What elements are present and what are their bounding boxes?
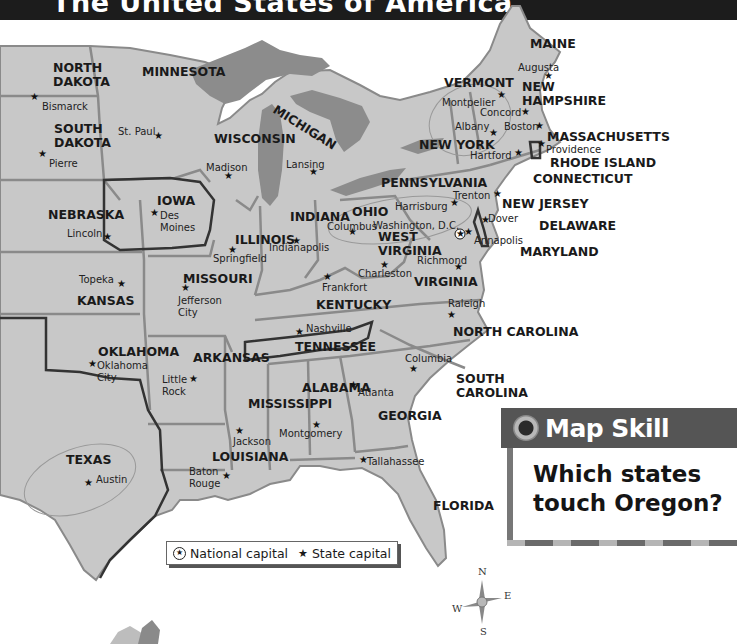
capital-label: Hartford bbox=[470, 150, 512, 161]
star-icon: ★ bbox=[493, 188, 502, 199]
state-label-minnesota: MINNESOTA bbox=[142, 64, 226, 79]
state-label-rhode-island: RHODE ISLAND bbox=[550, 155, 656, 170]
state-label-georgia: GEORGIA bbox=[378, 408, 442, 423]
compass-east: E bbox=[504, 590, 511, 601]
capital-label: Lincoln bbox=[67, 228, 102, 239]
star-icon: ★ bbox=[537, 138, 546, 149]
capital-label: Annapolis bbox=[474, 235, 523, 246]
capital-tallahassee: ★Tallahassee bbox=[359, 454, 424, 467]
capital-dover: ★Dover bbox=[481, 213, 519, 225]
star-icon: ★ bbox=[150, 207, 159, 218]
star-icon: ★ bbox=[38, 148, 47, 159]
star-icon: ★ bbox=[323, 271, 332, 282]
state-label-ohio: OHIO bbox=[352, 204, 388, 219]
star-icon: ★ bbox=[103, 231, 112, 242]
capital-label: Montgomery bbox=[279, 428, 342, 439]
legend-state-capital-label: State capital bbox=[312, 546, 391, 561]
state-label-maine: MAINE bbox=[530, 36, 576, 51]
capital-label: Madison bbox=[206, 162, 248, 173]
state-label-louisiana: LOUISIANA bbox=[212, 449, 289, 464]
state-label-mississippi: MISSISSIPPI bbox=[248, 396, 332, 411]
state-label-new-hampshire: NEWHAMPSHIRE bbox=[522, 79, 606, 108]
legend-national-capital-label: National capital bbox=[190, 546, 288, 561]
compass-rose: N E S W bbox=[452, 572, 512, 632]
star-icon: ★ bbox=[464, 226, 473, 237]
capital-label: Topeka bbox=[78, 274, 114, 285]
capital-label: Washington, D.C. bbox=[373, 220, 459, 231]
capital-boston: ★Boston bbox=[504, 120, 544, 132]
capital-label: Richmond bbox=[417, 255, 467, 266]
state-label-north-dakota: NORTHDAKOTA bbox=[53, 60, 110, 89]
capital-label: Pierre bbox=[49, 158, 78, 169]
compass-rose-icon bbox=[452, 572, 512, 632]
state-label-tennessee: TENNESSEE bbox=[295, 339, 376, 354]
compass-west: W bbox=[452, 603, 462, 614]
capital-label: BatonRouge bbox=[189, 466, 220, 489]
capital-label: Albany bbox=[455, 121, 489, 132]
capital-label: Columbia bbox=[405, 353, 452, 364]
state-label-oklahoma: OKLAHOMA bbox=[98, 344, 179, 359]
capital-label: Frankfort bbox=[322, 282, 367, 293]
capital-concord: ★Concord bbox=[480, 106, 530, 118]
capital-label: Charleston bbox=[358, 268, 412, 279]
map-skill-question: Which states touch Oregon? bbox=[533, 460, 737, 518]
star-icon: ★ bbox=[235, 425, 244, 436]
state-label-vermont: VERMONT bbox=[444, 75, 514, 90]
state-label-massachusetts: MASSACHUSETTS bbox=[547, 129, 670, 144]
capital-label: Tallahassee bbox=[366, 456, 424, 467]
capital-label: Dover bbox=[488, 213, 519, 224]
striped-border-decoration bbox=[507, 540, 737, 546]
legend-national-capital: ★ National capital bbox=[173, 546, 288, 561]
small-island-decoration-2 bbox=[138, 620, 160, 644]
capital-label: Nashville bbox=[306, 323, 352, 334]
compass-south: S bbox=[480, 626, 487, 637]
star-icon: ★ bbox=[450, 197, 459, 208]
state-label-south-carolina: SOUTHCAROLINA bbox=[456, 371, 528, 400]
compass-north: N bbox=[478, 566, 487, 577]
star-icon: ★ bbox=[222, 470, 231, 481]
capital-label: Lansing bbox=[286, 159, 325, 170]
state-label-iowa: IOWA bbox=[157, 193, 196, 208]
star-icon: ★ bbox=[295, 326, 304, 337]
capital-label: Raleigh bbox=[448, 298, 485, 309]
capital-label: LittleRock bbox=[162, 374, 187, 397]
state-label-south-dakota: SOUTHDAKOTA bbox=[54, 121, 111, 150]
capital-label: St. Paul bbox=[118, 126, 155, 137]
star-icon: ★ bbox=[497, 89, 506, 100]
capital-label: Harrisburg bbox=[395, 201, 448, 212]
capital-label: Bismarck bbox=[42, 101, 88, 112]
capital-label: Columbus bbox=[327, 221, 377, 232]
star-icon: ★ bbox=[84, 477, 93, 488]
state-label-texas: TEXAS bbox=[66, 452, 111, 467]
state-label-nebraska: NEBRASKA bbox=[48, 207, 125, 222]
star-icon: ★ bbox=[181, 282, 190, 293]
capital-label: Atlanta bbox=[358, 387, 394, 398]
capital-label: Augusta bbox=[518, 62, 559, 73]
state-label-delaware: DELAWARE bbox=[539, 218, 616, 233]
capital-label: Concord bbox=[480, 107, 521, 118]
capital-label: Indianapolis bbox=[269, 242, 329, 253]
state-label-connecticut: CONNECTICUT bbox=[533, 171, 633, 186]
map-skill-title: Map Skill bbox=[545, 414, 669, 443]
state-label-pennsylvania: PENNSYLVANIA bbox=[381, 175, 488, 190]
capital-label: Jackson bbox=[232, 436, 271, 447]
state-label-new-jersey: NEW JERSEY bbox=[502, 196, 589, 211]
state-label-maryland: MARYLAND bbox=[520, 244, 599, 259]
star-icon: ★ bbox=[489, 127, 498, 138]
star-icon: ★ bbox=[30, 91, 39, 102]
capital-label: Austin bbox=[96, 474, 127, 485]
state-label-arkansas: ARKANSAS bbox=[193, 350, 270, 365]
star-icon: ★ bbox=[349, 379, 358, 390]
star-icon: ★ bbox=[447, 309, 456, 320]
map-skill-body: Which states touch Oregon? bbox=[507, 448, 737, 546]
star-icon: ★ bbox=[117, 278, 126, 289]
state-label-north-carolina: NORTH CAROLINA bbox=[453, 324, 579, 339]
map-skill-box: Map Skill Which states touch Oregon? bbox=[501, 408, 737, 552]
circled-star-icon: ★ bbox=[173, 547, 186, 560]
star-icon: ★ bbox=[298, 547, 308, 560]
legend-state-capital: ★ State capital bbox=[298, 546, 391, 561]
state-label-wisconsin: WISCONSIN bbox=[214, 131, 296, 146]
star-icon: ★ bbox=[88, 358, 97, 369]
state-label-florida: FLORIDA bbox=[433, 498, 494, 513]
state-label-virginia: VIRGINIA bbox=[414, 274, 478, 289]
